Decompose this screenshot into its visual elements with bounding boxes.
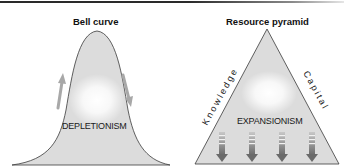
resource-pyramid-title: Resource pyramid <box>226 16 309 27</box>
pyramid-glow <box>241 71 297 115</box>
expansionism-label: EXPANSIONISM <box>237 116 302 126</box>
up-arrow-icon <box>58 73 66 108</box>
bell-glow <box>69 74 125 126</box>
bell-curve-panel <box>12 31 170 165</box>
bell-curve-title: Bell curve <box>73 16 118 27</box>
depletionism-label: DEPLETIONISM <box>62 121 127 131</box>
